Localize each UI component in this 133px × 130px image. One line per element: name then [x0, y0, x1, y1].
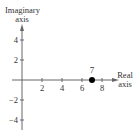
imaginary-axis-label-line2: axis	[5, 15, 39, 24]
imaginary-axis-label: Imaginary axis	[5, 6, 39, 24]
y-tick-label: 2	[8, 56, 18, 65]
imaginary-axis-arrow-icon	[20, 24, 24, 31]
real-axis-label: Real axis	[116, 71, 133, 89]
y-tick-label: −4	[4, 116, 18, 125]
y-tick-label: −2	[4, 96, 18, 105]
real-axis-label-line2: axis	[116, 80, 133, 89]
x-tick-label: 6	[78, 84, 86, 93]
point-label: 7	[87, 66, 97, 75]
data-point	[89, 77, 95, 83]
x-tick-label: 4	[58, 84, 66, 93]
x-tick-label: 8	[98, 84, 106, 93]
x-tick-label: 2	[38, 84, 46, 93]
y-tick-label: 4	[8, 36, 18, 45]
